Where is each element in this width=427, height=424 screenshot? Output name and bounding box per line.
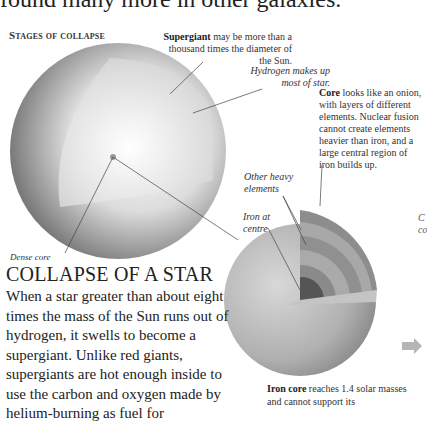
iron-centre-caption: Iron at centre — [243, 211, 293, 235]
iron-core-caption: Iron core reaches 1.4 solar masses and c… — [267, 383, 407, 408]
article-title: COLLAPSE OF A STAR — [6, 263, 213, 286]
edge-cut-caption: C co — [418, 212, 427, 236]
intro-line: found many more in other galaxies. — [0, 0, 341, 13]
supergiant-sphere — [10, 43, 226, 259]
other-heavy-caption: Other heavy elements — [244, 171, 314, 195]
supergiant-caption: Supergiant may be more than a thousand t… — [162, 31, 292, 67]
hydrogen-caption: Hydrogen makes up most of star. — [234, 65, 330, 89]
dense-core-caption: Dense core — [10, 251, 50, 263]
iron-core-term: Iron core — [267, 383, 306, 394]
section-label: Stages of collapse — [9, 29, 105, 41]
arrow-right-icon — [402, 338, 422, 354]
core-term: Core — [319, 87, 340, 98]
article-body: When a star greater than about eight tim… — [6, 287, 238, 424]
supergiant-term: Supergiant — [163, 31, 210, 42]
core-caption: Core looks like an onion, with layers of… — [319, 87, 423, 171]
